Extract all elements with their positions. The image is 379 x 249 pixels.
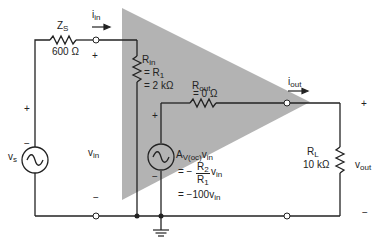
output-terminal-bottom bbox=[284, 213, 290, 219]
vout-plus: + bbox=[361, 99, 367, 109]
dep-denominator: R1 bbox=[197, 175, 209, 187]
dep-minus: − bbox=[152, 172, 158, 182]
vin-plus: + bbox=[92, 51, 98, 61]
vs-minus: − bbox=[24, 139, 30, 149]
rin-value: = 2 kΩ bbox=[144, 81, 173, 91]
iout-label: iout bbox=[288, 77, 301, 89]
rl-value: 10 kΩ bbox=[303, 160, 329, 170]
circuit-schematic bbox=[0, 0, 379, 249]
rl-label: RL bbox=[307, 147, 319, 159]
resistor-rl bbox=[336, 147, 344, 173]
dep-plus: + bbox=[152, 111, 158, 121]
vout-minus: − bbox=[362, 208, 368, 218]
dep-result: = −100vin bbox=[178, 190, 220, 202]
iin-label: iin bbox=[92, 10, 100, 22]
dep-eq-var: vin bbox=[211, 167, 222, 179]
dependent-source-icon bbox=[148, 144, 174, 170]
input-terminal-bottom bbox=[93, 213, 99, 219]
vs-label: vs bbox=[8, 152, 17, 164]
vs-plus: + bbox=[24, 104, 30, 114]
rin-eq-r1: = R1 bbox=[144, 68, 164, 80]
ground-icon bbox=[153, 230, 169, 236]
output-terminal-top bbox=[284, 100, 290, 106]
dep-source-label: AV(oc)vin bbox=[176, 150, 213, 162]
vin-minus: − bbox=[93, 193, 99, 203]
rin-label: Rin bbox=[142, 55, 155, 67]
zs-value: 600 Ω bbox=[52, 47, 79, 57]
vout-label: vout bbox=[355, 160, 371, 172]
junction-dot bbox=[135, 214, 140, 219]
rout-value: = 0 Ω bbox=[193, 89, 217, 99]
input-terminal-top bbox=[93, 37, 99, 43]
dep-eq-prefix: = − bbox=[178, 167, 192, 177]
zs-label: ZS bbox=[57, 21, 68, 33]
wire-source-left bbox=[35, 40, 50, 160]
vin-label: vin bbox=[88, 148, 99, 160]
resistor-zs bbox=[50, 36, 76, 44]
source-vs-icon bbox=[22, 147, 48, 173]
junction-dot bbox=[159, 214, 164, 219]
